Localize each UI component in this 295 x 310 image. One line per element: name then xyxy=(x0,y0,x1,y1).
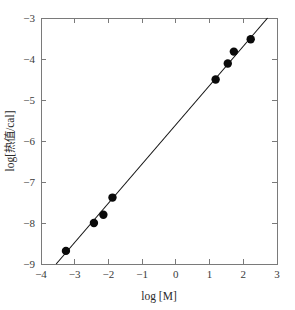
scatter-plot-figure: −4−3−2−10123 −9−8−7−6−5−4−3 log [M] log[… xyxy=(0,0,295,310)
data-point-marker xyxy=(90,219,98,227)
y-axis-label: log[热值/cal] xyxy=(4,111,17,172)
data-point-marker xyxy=(224,59,232,67)
plot-frame xyxy=(41,18,277,264)
data-point-marker xyxy=(62,247,70,255)
y-tick-label: −8 xyxy=(23,217,35,229)
x-axis-ticks xyxy=(41,18,277,264)
y-tick-label: −3 xyxy=(23,12,35,24)
x-tick-label: 1 xyxy=(207,268,213,280)
x-tick-label: 3 xyxy=(274,268,280,280)
x-tick-label: −1 xyxy=(136,268,148,280)
data-point-marker xyxy=(108,193,116,201)
y-axis-tick-labels: −9−8−7−6−5−4−3 xyxy=(23,12,35,270)
data-point-marker xyxy=(230,47,238,55)
y-tick-label: −4 xyxy=(23,53,35,65)
x-tick-label: 0 xyxy=(173,268,179,280)
axes-frame xyxy=(41,18,277,264)
y-tick-label: −7 xyxy=(23,176,35,188)
y-tick-label: −6 xyxy=(23,135,35,147)
y-axis-ticks xyxy=(41,18,277,264)
data-point-marker xyxy=(99,211,107,219)
data-point-marker xyxy=(211,75,219,83)
x-axis-tick-labels: −4−3−2−10123 xyxy=(35,268,280,280)
data-point-marker xyxy=(247,35,255,43)
x-tick-label: −4 xyxy=(35,268,47,280)
x-axis-label: log [M] xyxy=(141,290,176,303)
x-tick-label: −2 xyxy=(103,268,115,280)
plot-canvas: −4−3−2−10123 −9−8−7−6−5−4−3 log [M] log[… xyxy=(0,0,295,310)
x-tick-label: 2 xyxy=(241,268,247,280)
y-tick-label: −5 xyxy=(23,94,35,106)
y-tick-label: −9 xyxy=(23,258,35,270)
x-tick-label: −3 xyxy=(69,268,81,280)
